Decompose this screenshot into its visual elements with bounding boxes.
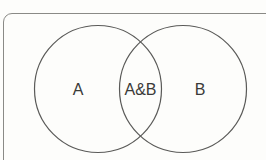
set-b-label: B: [195, 81, 206, 98]
intersection-label: A&B: [124, 81, 156, 98]
set-a-label: A: [73, 81, 84, 98]
venn-diagram: A A&B B: [0, 0, 266, 160]
